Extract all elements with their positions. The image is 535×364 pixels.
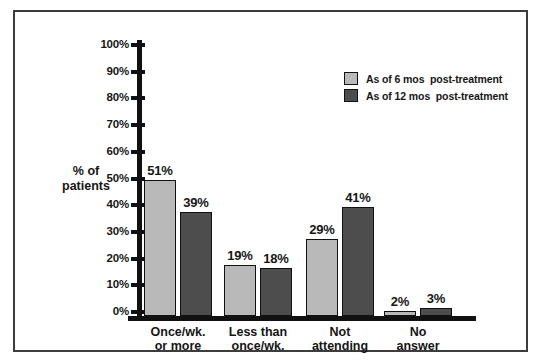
- category-label-line: Less than: [216, 325, 300, 339]
- bar-value-label: 51%: [138, 163, 182, 178]
- y-axis-tick-label: 0%: [85, 305, 129, 317]
- bar-value-label: 29%: [300, 222, 344, 237]
- category-label-line: attending: [298, 339, 382, 353]
- legend-swatch: [344, 89, 358, 102]
- bar-12mos-cat1: [180, 212, 212, 316]
- category-label: Once/wk.or more: [136, 325, 220, 354]
- legend-item: As of 6 mos post-treatment: [344, 70, 508, 87]
- y-axis-tick: [131, 96, 145, 100]
- category-label-line: Once/wk.: [136, 325, 220, 339]
- y-axis-tick-label: 80%: [85, 91, 129, 103]
- y-axis-tick: [131, 230, 145, 234]
- y-axis-tick-label: 100%: [85, 38, 129, 50]
- bar-value-label: 39%: [174, 195, 218, 210]
- bar-6mos-cat3: [306, 239, 338, 316]
- y-axis-tick: [131, 150, 145, 154]
- x-axis-line: [128, 316, 476, 321]
- legend-label: As of 6 mos post-treatment: [366, 73, 502, 85]
- legend-swatch: [344, 72, 358, 85]
- category-label-line: answer: [376, 339, 460, 353]
- bar-6mos-cat2: [224, 265, 256, 316]
- y-axis-tick-label: 40%: [85, 198, 129, 210]
- bar-12mos-cat2: [260, 268, 292, 316]
- y-axis-tick-label: 90%: [85, 65, 129, 77]
- category-label: Notattending: [298, 325, 382, 354]
- y-axis-tick: [131, 43, 145, 47]
- y-axis-tick-label: 50%: [85, 172, 129, 184]
- category-label-line: or more: [136, 339, 220, 353]
- y-axis-line: [137, 40, 142, 321]
- bar-6mos-cat4: [384, 311, 416, 316]
- bar-value-label: 41%: [336, 190, 380, 205]
- legend-item: As of 12 mos post-treatment: [344, 87, 508, 104]
- category-label: Noanswer: [376, 325, 460, 354]
- category-label-line: No: [376, 325, 460, 339]
- bar-value-label: 18%: [254, 251, 298, 266]
- bar-12mos-cat3: [342, 207, 374, 316]
- y-axis-tick: [131, 310, 145, 314]
- chart-figure: % ofpatients 100%90%80%70%60%50%40%30%20…: [0, 0, 535, 364]
- category-label-line: once/wk.: [216, 339, 300, 353]
- bar-value-label: 3%: [414, 291, 458, 306]
- legend-label: As of 12 mos post-treatment: [366, 90, 508, 102]
- y-axis-tick: [131, 203, 145, 207]
- legend: As of 6 mos post-treatmentAs of 12 mos p…: [344, 70, 508, 104]
- category-label: Less thanonce/wk.: [216, 325, 300, 354]
- y-axis-tick-label: 60%: [85, 145, 129, 157]
- y-axis-tick-label: 30%: [85, 225, 129, 237]
- y-axis-tick-label: 20%: [85, 252, 129, 264]
- bar-6mos-cat1: [144, 180, 176, 316]
- y-axis-tick: [131, 283, 145, 287]
- y-axis-tick: [131, 257, 145, 261]
- y-axis-tick-label: 10%: [85, 278, 129, 290]
- y-axis-tick-label: 70%: [85, 118, 129, 130]
- y-axis-tick: [131, 123, 145, 127]
- category-label-line: Not: [298, 325, 382, 339]
- bar-12mos-cat4: [420, 308, 452, 316]
- y-axis-tick: [131, 70, 145, 74]
